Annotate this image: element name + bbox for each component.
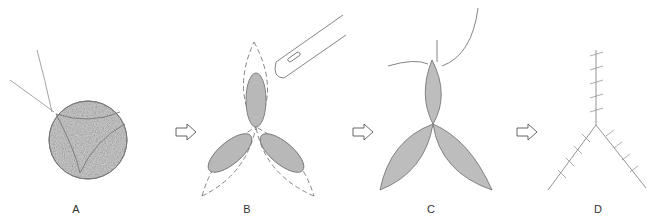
arrow-right-icon — [176, 124, 196, 140]
arrow-icons — [176, 124, 537, 140]
panel-a-drawing — [10, 50, 127, 179]
panel-c-drawing — [380, 8, 492, 190]
panel-label-d: D — [588, 203, 608, 215]
panel-label-b: B — [237, 203, 257, 215]
arrow-right-icon — [353, 124, 373, 140]
arrow-right-icon — [517, 124, 537, 140]
panel-b-drawing — [202, 15, 346, 196]
surgical-diagram — [0, 0, 658, 222]
panel-d-drawing — [548, 50, 646, 190]
panel-label-c: C — [421, 203, 441, 215]
panel-label-a: A — [66, 203, 86, 215]
